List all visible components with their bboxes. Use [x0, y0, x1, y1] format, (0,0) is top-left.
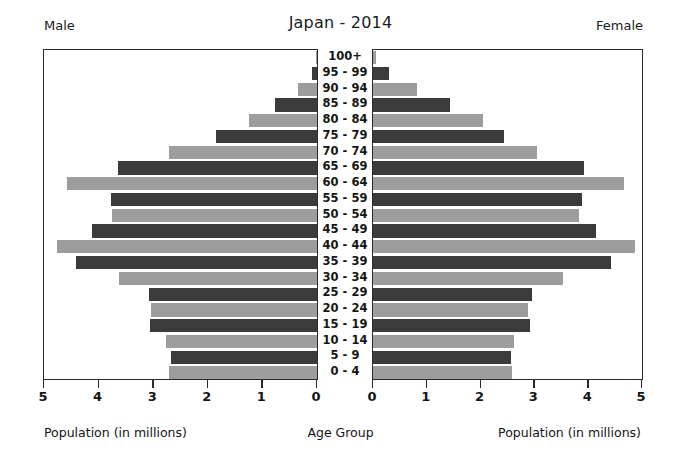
bar-female-80-84: [373, 114, 483, 127]
bar-female-50-54: [373, 209, 579, 222]
bar-male-70-74: [169, 146, 318, 159]
bar-row: [44, 145, 317, 161]
female-plot-area: [372, 49, 643, 380]
axis-tick: [641, 380, 642, 388]
bar-female-90-94: [373, 83, 417, 96]
age-group-label: 85 - 89: [318, 96, 372, 112]
bar-row: [44, 129, 317, 145]
bar-row: [44, 349, 317, 365]
axis-tick-label: 3: [140, 388, 164, 406]
age-group-label: 25 - 29: [318, 285, 372, 301]
right-axis-caption: Population (in millions): [498, 424, 641, 442]
male-x-axis: 543210: [43, 380, 318, 406]
bar-female-10-14: [373, 335, 514, 348]
bar-male-15-19: [150, 319, 317, 332]
bar-row: [373, 50, 642, 66]
age-group-label: 15 - 19: [318, 317, 372, 333]
bar-row: [373, 302, 642, 318]
bar-row: [44, 208, 317, 224]
bar-male-55-59: [111, 193, 317, 206]
bar-female-100+: [373, 51, 376, 64]
female-x-axis: 012345: [372, 380, 643, 406]
bar-male-45-49: [92, 224, 317, 237]
bar-row: [373, 97, 642, 113]
bar-male-65-69: [118, 161, 317, 174]
bar-row: [373, 176, 642, 192]
bar-male-20-24: [151, 303, 317, 316]
bar-female-95-99: [373, 67, 389, 80]
age-group-label: 0 - 4: [318, 364, 372, 380]
age-group-label-column: 100+95 - 9990 - 9485 - 8980 - 8475 - 797…: [318, 49, 372, 380]
bar-row: [44, 365, 317, 380]
axis-tick: [372, 380, 373, 388]
chart-title: Japan - 2014: [0, 12, 681, 34]
axis-tick-label: 1: [414, 388, 438, 406]
male-bar-rows: [44, 50, 317, 379]
axis-tick-label: 0: [304, 388, 328, 406]
bar-female-70-74: [373, 146, 537, 159]
bar-male-50-54: [112, 209, 317, 222]
age-group-label: 50 - 54: [318, 207, 372, 223]
bar-row: [373, 239, 642, 255]
bar-row: [44, 223, 317, 239]
bar-female-30-34: [373, 272, 563, 285]
axis-tick-label: 3: [521, 388, 545, 406]
axis-tick: [43, 380, 44, 388]
bar-row: [373, 318, 642, 334]
bar-female-5-9: [373, 351, 511, 364]
bar-row: [373, 271, 642, 287]
bar-male-40-44: [57, 240, 317, 253]
bar-row: [44, 160, 317, 176]
bar-male-5-9: [171, 351, 317, 364]
age-group-label: 45 - 49: [318, 222, 372, 238]
axis-tick-label: 4: [86, 388, 110, 406]
bar-female-75-79: [373, 130, 504, 143]
axis-tick: [98, 380, 99, 388]
bar-row: [44, 271, 317, 287]
bar-row: [373, 82, 642, 98]
axis-tick: [587, 380, 588, 388]
age-group-label: 35 - 39: [318, 254, 372, 270]
axis-tick-label: 5: [31, 388, 55, 406]
bar-row: [44, 66, 317, 82]
bar-male-60-64: [67, 177, 317, 190]
axis-tick: [533, 380, 534, 388]
bar-female-0-4: [373, 366, 512, 379]
axis-tick-label: 0: [360, 388, 384, 406]
bar-female-45-49: [373, 224, 596, 237]
axis-tick: [152, 380, 153, 388]
female-side-label: Female: [596, 16, 643, 36]
bar-row: [44, 192, 317, 208]
bar-female-20-24: [373, 303, 528, 316]
bar-row: [373, 192, 642, 208]
bar-row: [373, 334, 642, 350]
bar-row: [373, 160, 642, 176]
bar-row: [373, 113, 642, 129]
axis-tick-label: 2: [195, 388, 219, 406]
female-bar-rows: [373, 50, 642, 379]
bar-female-55-59: [373, 193, 582, 206]
bar-row: [373, 129, 642, 145]
age-group-label: 70 - 74: [318, 144, 372, 160]
age-group-label: 30 - 34: [318, 270, 372, 286]
age-group-label: 10 - 14: [318, 333, 372, 349]
age-group-label: 40 - 44: [318, 238, 372, 254]
bar-male-90-94: [298, 83, 317, 96]
axis-tick: [261, 380, 262, 388]
age-group-label: 75 - 79: [318, 128, 372, 144]
bar-male-0-4: [169, 366, 318, 379]
age-group-label: 20 - 24: [318, 301, 372, 317]
bar-female-25-29: [373, 288, 532, 301]
age-group-label: 95 - 99: [318, 65, 372, 81]
bar-row: [44, 334, 317, 350]
bar-female-85-89: [373, 98, 450, 111]
bar-female-65-69: [373, 161, 584, 174]
bar-female-40-44: [373, 240, 635, 253]
bar-row: [44, 255, 317, 271]
bar-male-85-89: [275, 98, 317, 111]
axis-tick: [426, 380, 427, 388]
bar-female-35-39: [373, 256, 611, 269]
bar-row: [44, 176, 317, 192]
bar-row: [373, 365, 642, 380]
bar-male-80-84: [249, 114, 317, 127]
